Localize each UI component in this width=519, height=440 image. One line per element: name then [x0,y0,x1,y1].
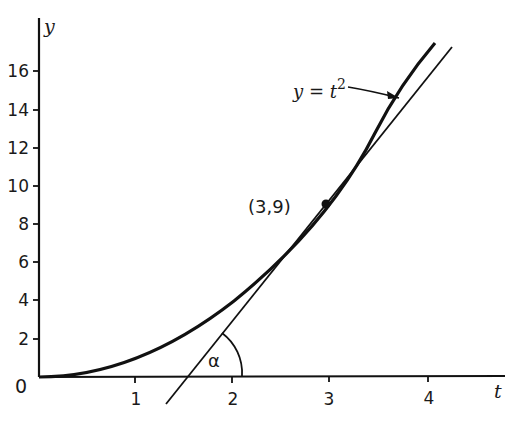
svg-text:3: 3 [324,389,335,409]
svg-text:y = t2: y = t2 [292,76,346,102]
svg-text:6: 6 [18,252,29,272]
curve-label: y = t2 [292,76,399,102]
svg-text:2: 2 [228,389,239,409]
svg-text:16: 16 [7,61,29,81]
angle-label: α [208,350,220,371]
svg-text:8: 8 [18,214,29,234]
y-tick-labels: 16 14 12 10 8 6 4 2 0 [7,61,29,397]
x-axis [39,376,505,377]
svg-text:0: 0 [15,375,27,397]
chart: 16 14 12 10 8 6 4 2 0 1 2 3 4 y t (3,9) … [0,0,519,440]
svg-text:2: 2 [18,329,29,349]
tangent-point [322,200,331,209]
svg-text:1: 1 [131,389,142,409]
svg-text:12: 12 [7,138,29,158]
svg-text:14: 14 [7,100,29,120]
point-label: (3,9) [248,196,291,217]
angle-arc [222,333,242,376]
svg-text:4: 4 [18,290,29,310]
svg-text:10: 10 [7,176,29,196]
x-axis-label: t [494,380,502,402]
y-axis-label: y [43,15,55,37]
svg-text:4: 4 [424,388,435,408]
